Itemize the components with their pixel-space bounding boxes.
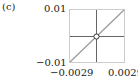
plot-area bbox=[0, 0, 138, 80]
origin-marker bbox=[94, 34, 99, 39]
